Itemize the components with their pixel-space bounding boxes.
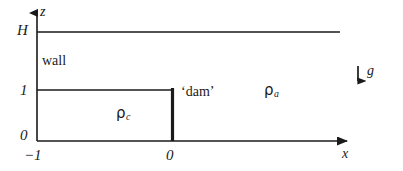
ambient-density-subscript: a (274, 88, 279, 99)
z-tick-label-H: H (17, 23, 28, 38)
x-tick-label-minus-one: −1 (24, 148, 42, 163)
gravity-label: g (367, 64, 374, 78)
z-axis-label: z (40, 5, 45, 19)
ambient-density-symbol: ρ (264, 81, 274, 99)
z-tick-label-1: 1 (20, 83, 28, 98)
x-tick-label-zero: 0 (166, 148, 174, 163)
wall-label: wall (42, 54, 66, 68)
ambient-density-label: ρa (264, 83, 279, 99)
lock-density-subscript: c (126, 111, 130, 122)
lock-density-symbol: ρ (116, 104, 126, 122)
lock-density-label: ρc (116, 106, 130, 122)
x-axis-label: x (342, 147, 348, 161)
dam-label: ‘dam’ (181, 85, 214, 99)
z-tick-label-0: 0 (20, 128, 28, 143)
figure-canvas: z x H 1 0 −1 0 wall ‘dam’ ρc ρa g (0, 0, 403, 171)
